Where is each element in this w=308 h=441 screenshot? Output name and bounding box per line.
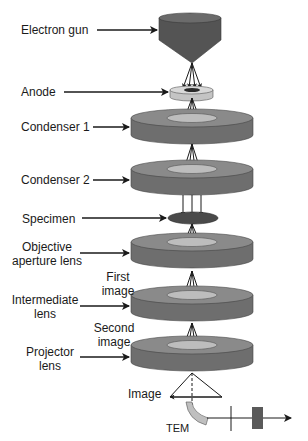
label-second-image-line2: image (92, 335, 136, 349)
projector-lens (131, 336, 253, 371)
intermediate-lens (131, 286, 253, 321)
label-second-image: Second image (92, 321, 136, 349)
label-anode: Anode (21, 85, 56, 99)
label-image: Image (128, 387, 161, 401)
specimen (168, 212, 218, 224)
beam-gun-anode (183, 63, 201, 88)
label-first-image-line2: image (98, 284, 138, 298)
objective-aperture-lens (131, 233, 253, 268)
electron-gun (159, 13, 221, 63)
label-intermediate-lens: Intermediate lens (10, 293, 80, 321)
label-projector-line1: Projector (22, 345, 78, 359)
label-tem: TEM (166, 421, 189, 435)
tem-diagram: Electron gun Anode Condenser 1 Condenser… (0, 0, 308, 441)
tem-detector (186, 402, 291, 431)
image-projection (170, 373, 222, 405)
label-intermediate-line2: lens (10, 307, 80, 321)
label-objective-line1: Objective (12, 240, 82, 254)
condenser-1-lens (131, 109, 253, 144)
label-objective-line2: aperture lens (12, 254, 82, 268)
label-first-image-line1: First (98, 270, 138, 284)
label-condenser-1: Condenser 1 (21, 120, 90, 134)
label-specimen: Specimen (22, 212, 75, 226)
label-second-image-line1: Second (92, 321, 136, 335)
label-intermediate-line1: Intermediate (10, 293, 80, 307)
screen-block (252, 407, 263, 429)
label-projector-lens: Projector lens (22, 345, 78, 373)
label-electron-gun: Electron gun (21, 23, 88, 37)
label-projector-line2: lens (22, 359, 78, 373)
label-condenser-2: Condenser 2 (21, 173, 90, 187)
label-first-image: First image (98, 270, 138, 298)
condenser-2-lens (131, 160, 253, 195)
label-objective-aperture-lens: Objective aperture lens (12, 240, 82, 268)
